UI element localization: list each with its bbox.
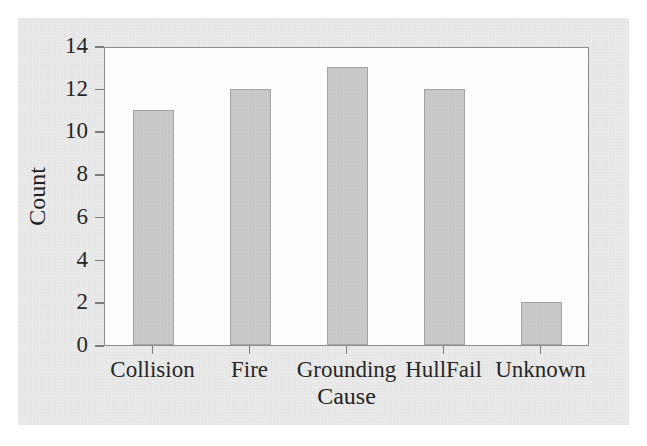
y-axis-tick-mark	[95, 89, 104, 91]
y-axis-tick-mark	[95, 345, 104, 347]
x-axis-tick-label: Fire	[231, 357, 268, 383]
x-axis-tick-mark	[249, 346, 251, 354]
y-axis-tick-mark	[95, 46, 104, 48]
x-axis-tick-label: Collision	[110, 357, 194, 383]
bar	[133, 110, 174, 345]
y-axis-tick-label: 8	[77, 162, 89, 185]
x-axis-tick-mark	[152, 346, 154, 354]
y-axis-tick-label: 0	[77, 333, 89, 356]
y-axis-tick-label: 4	[77, 248, 89, 271]
y-axis-tick-label: 14	[65, 34, 88, 57]
bar	[424, 89, 465, 345]
bar	[230, 89, 271, 345]
y-axis-tick-mark	[95, 260, 104, 262]
x-axis-tick-label: Unknown	[495, 357, 586, 383]
y-axis-tick-mark	[95, 302, 104, 304]
y-axis-tick-label: 12	[65, 77, 88, 100]
y-axis: 02468101214	[0, 47, 104, 346]
y-axis-tick-label: 2	[77, 290, 89, 313]
x-axis-tick-mark	[346, 346, 348, 354]
x-axis-tick-label: HullFail	[405, 357, 482, 383]
plot-area	[104, 47, 589, 346]
x-axis-tick-mark	[443, 346, 445, 354]
y-axis-tick-label: 10	[65, 119, 88, 142]
y-axis-tick-mark	[95, 131, 104, 133]
x-axis-title: Cause	[104, 383, 589, 410]
bar	[521, 302, 562, 345]
x-axis-tick-label: Grounding	[297, 357, 397, 383]
y-axis-tick-mark	[95, 174, 104, 176]
x-axis-tick-mark	[540, 346, 542, 354]
y-axis-tick-mark	[95, 217, 104, 219]
y-axis-tick-label: 6	[77, 205, 89, 228]
bar	[327, 67, 368, 345]
